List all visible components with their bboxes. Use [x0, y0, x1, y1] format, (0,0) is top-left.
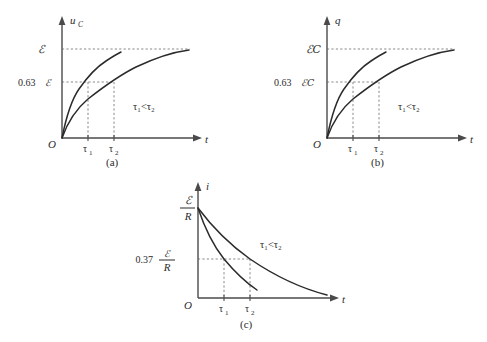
tick-label-tau1-c: τ	[219, 303, 223, 314]
curve-tau2-a	[62, 50, 189, 138]
asymptote-num-c: ℰ	[185, 194, 193, 207]
x-axis-label-a: t	[205, 133, 209, 145]
y-axis-arrow-b	[324, 16, 331, 25]
tick-sub-tau2-c: 2	[251, 309, 255, 317]
level-sym-b: ℰC	[301, 77, 315, 88]
tick-sub-tau1-a: 1	[89, 149, 93, 157]
x-axis-arrow-c	[330, 295, 339, 302]
curve-tau2-b	[327, 50, 454, 138]
y-axis-label-a: u	[70, 14, 76, 26]
level-frac-num-c: ℰ	[164, 248, 171, 259]
x-axis-arrow-b	[458, 135, 467, 142]
tick-label-tau1-a: τ	[83, 143, 87, 154]
tick-label-tau2-a: τ	[109, 143, 113, 154]
curve-tau2-c	[198, 208, 327, 295]
asymptote-den-c: R	[184, 210, 192, 222]
origin-label-c: O	[184, 299, 192, 311]
panel-caption-c: (c)	[240, 318, 253, 331]
x-axis-arrow-a	[193, 135, 202, 142]
asymptote-label-b: ℰC	[306, 43, 322, 56]
rc-transient-figure: u C t O ℰ 0.63 ℰ τ 1 τ 2 τ₁<τ₂ (a)	[0, 0, 487, 342]
y-axis-arrow-a	[59, 16, 66, 25]
y-axis-arrow-c	[195, 182, 202, 191]
level-frac-den-c: R	[163, 261, 171, 273]
panel-a: u C t O ℰ 0.63 ℰ τ 1 τ 2 τ₁<τ₂ (a)	[0, 0, 243, 171]
origin-label-b: O	[313, 138, 321, 150]
panel-c: i t O ℰ R 0.37 ℰ R τ 1 τ 2 τ₁<τ₂ (c)	[100, 170, 390, 342]
tick-label-tau2-c: τ	[245, 303, 249, 314]
level-num-a: 0.63	[18, 77, 36, 88]
origin-label-a: O	[48, 138, 56, 150]
level-sym-a: ℰ	[45, 77, 52, 88]
tick-sub-tau1-b: 1	[354, 149, 358, 157]
x-axis-label-b: t	[470, 133, 474, 145]
curve-tau1-b	[327, 52, 386, 138]
level-num-b: 0.63	[274, 77, 292, 88]
y-axis-sub-a: C	[78, 20, 84, 29]
curve-tau1-a	[62, 52, 121, 138]
asymptote-label-a: ℰ	[38, 43, 46, 56]
tick-label-tau1-b: τ	[348, 143, 352, 154]
panel-b: q t O ℰC 0.63 ℰC τ 1 τ 2 τ₁<τ₂ (b)	[243, 0, 487, 171]
level-num-c: 0.37	[136, 254, 154, 265]
y-axis-label-c: i	[206, 180, 209, 192]
comparison-label-c: τ₁<τ₂	[260, 239, 282, 250]
panel-caption-a: (a)	[106, 156, 119, 169]
y-axis-label-b: q	[335, 14, 341, 26]
comparison-label-a: τ₁<τ₂	[133, 101, 155, 112]
panel-caption-b: (b)	[371, 156, 384, 169]
tick-label-tau2-b: τ	[374, 143, 378, 154]
x-axis-label-c: t	[342, 293, 346, 305]
comparison-label-b: τ₁<τ₂	[398, 101, 420, 112]
tick-sub-tau1-c: 1	[225, 309, 229, 317]
